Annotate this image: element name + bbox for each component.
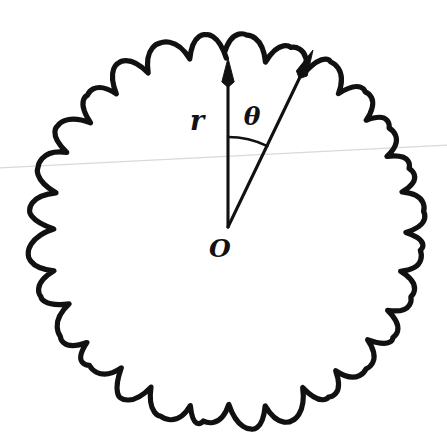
scan-artifact-line (0, 145, 447, 168)
radius-arrow-head-icon (222, 58, 234, 87)
angle-ray-line (228, 68, 304, 227)
diagram-canvas: r θ O (0, 0, 447, 447)
radius-label: r (190, 105, 206, 136)
polar-diagram-figure: r θ O (0, 0, 447, 447)
theta-label: θ (244, 102, 261, 131)
origin-label: O (209, 234, 231, 263)
theta-angle-arc (228, 137, 267, 146)
